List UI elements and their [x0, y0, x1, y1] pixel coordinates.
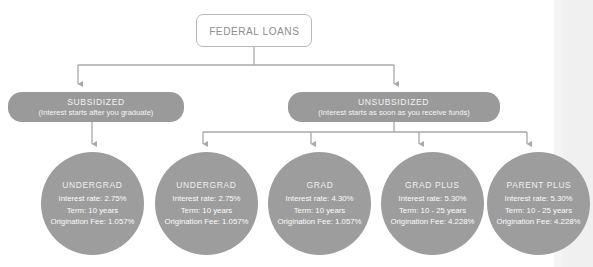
node-unsubsidized-subtitle: (Interest starts as soon as you receive …: [318, 108, 470, 118]
loan-name: GRAD PLUS: [405, 179, 459, 190]
loan-term: Term: 10 years: [294, 205, 346, 217]
loan-name: PARENT PLUS: [506, 179, 571, 190]
loan-term: Term: 10 years: [67, 205, 119, 217]
diagram-canvas: FEDERAL LOANS SUBSIDIZED (Interest start…: [0, 0, 593, 267]
loan-origination-fee: Origination Fee: 4.228%: [496, 216, 580, 228]
loan-interest-rate: Interest rate: 2.75%: [172, 193, 240, 205]
loan-name: UNDERGRAD: [62, 179, 122, 190]
loan-node-parent-plus: PARENT PLUS Interest rate: 5.30% Term: 1…: [487, 152, 590, 255]
node-subsidized-title: SUBSIDIZED: [67, 96, 125, 107]
loan-origination-fee: Origination Fee: 1.057%: [164, 216, 248, 228]
loan-interest-rate: Interest rate: 5.30%: [504, 193, 572, 205]
loan-origination-fee: Origination Fee: 1.057%: [277, 216, 361, 228]
loan-node-grad: GRAD Interest rate: 4.30% Term: 10 years…: [268, 152, 371, 255]
node-unsubsidized-title: UNSUBSIDIZED: [358, 96, 429, 107]
node-unsubsidized: UNSUBSIDIZED (Interest starts as soon as…: [288, 92, 500, 122]
loan-name: GRAD: [306, 179, 333, 190]
loan-origination-fee: Origination Fee: 1.057%: [50, 216, 134, 228]
node-federal-loans-label: FEDERAL LOANS: [209, 25, 299, 37]
loan-node-grad-plus: GRAD PLUS Interest rate: 5.30% Term: 10 …: [381, 152, 484, 255]
loan-term: Term: 10 - 25 years: [505, 205, 572, 217]
loan-node-undergrad-subsidized: UNDERGRAD Interest rate: 2.75% Term: 10 …: [41, 152, 144, 255]
loan-name: UNDERGRAD: [176, 179, 236, 190]
node-federal-loans: FEDERAL LOANS: [196, 14, 312, 47]
loan-interest-rate: Interest rate: 2.75%: [58, 193, 126, 205]
node-subsidized: SUBSIDIZED (Interest starts after you gr…: [8, 92, 184, 122]
loan-node-undergrad-unsubsidized: UNDERGRAD Interest rate: 2.75% Term: 10 …: [155, 152, 258, 255]
loan-interest-rate: Interest rate: 4.30%: [285, 193, 353, 205]
node-subsidized-subtitle: (Interest starts after you graduate): [39, 108, 154, 118]
loan-origination-fee: Origination Fee: 4.228%: [390, 216, 474, 228]
loan-interest-rate: Interest rate: 5.30%: [398, 193, 466, 205]
loan-term: Term: 10 years: [181, 205, 233, 217]
loan-term: Term: 10 - 25 years: [399, 205, 466, 217]
